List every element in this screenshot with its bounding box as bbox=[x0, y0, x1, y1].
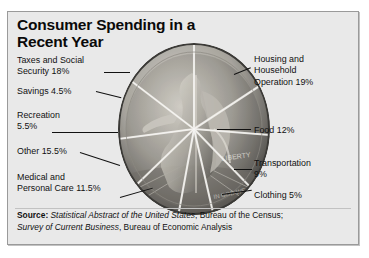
callout-transportation: Transportation 9% bbox=[254, 158, 354, 181]
figure-panel: Consumer Spending in a Recent Year bbox=[7, 11, 359, 245]
callout-other: Other 15.5% bbox=[17, 146, 117, 157]
source-line-2: Survey of Current Business, Bureau of Ec… bbox=[17, 222, 351, 234]
leader-line-taxes bbox=[104, 72, 130, 73]
callout-medical-and-personal-care: Medical and Personal Care 11.5% bbox=[17, 172, 137, 195]
callout-housing-and-household-operation: Housing and Household Operation 19% bbox=[254, 54, 354, 88]
source-title-1: Statistical Abstract of the United State… bbox=[51, 210, 195, 220]
source-line-1: Source: Statistical Abstract of the Unit… bbox=[17, 210, 351, 222]
source-note: Source: Statistical Abstract of the Unit… bbox=[17, 210, 351, 234]
leader-line-transportation bbox=[234, 169, 252, 170]
callout-clothing: Clothing 5% bbox=[254, 190, 354, 201]
source-rest-1: , Bureau of the Census; bbox=[195, 210, 283, 220]
leader-line-food bbox=[217, 129, 251, 130]
source-rest-2: , Bureau of Economic Analysis bbox=[119, 222, 232, 232]
title-line-1: Consumer Spending in a bbox=[17, 16, 247, 33]
source-label: Source: bbox=[17, 210, 48, 220]
leader-line-recreation bbox=[52, 132, 118, 133]
callout-recreation: Recreation 5.5% bbox=[17, 110, 117, 133]
callout-taxes-and-social-security: Taxes and Social Security 18% bbox=[17, 55, 117, 78]
source-title-2: Survey of Current Business bbox=[17, 222, 119, 232]
callout-food: Food 12% bbox=[254, 125, 354, 136]
source-divider bbox=[15, 208, 351, 209]
